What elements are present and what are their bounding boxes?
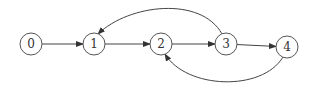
node-2: 2	[150, 33, 172, 55]
edge-3-to-1	[98, 8, 222, 34]
graph-diagram: 01234	[0, 0, 315, 88]
node-label: 3	[222, 37, 230, 51]
node-3: 3	[215, 33, 237, 55]
node-4: 4	[276, 36, 298, 58]
node-label: 4	[283, 40, 291, 54]
node-1: 1	[83, 33, 105, 55]
node-0: 0	[20, 33, 42, 55]
edge-4-to-2	[165, 54, 283, 82]
node-label: 1	[90, 37, 98, 51]
edge-3-to-4	[237, 45, 276, 47]
node-label: 2	[157, 37, 165, 51]
node-label: 0	[27, 37, 35, 51]
